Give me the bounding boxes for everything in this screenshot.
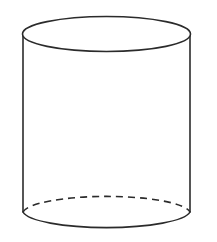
cylinder-drawing bbox=[0, 0, 217, 242]
figure-canvas bbox=[0, 0, 217, 242]
cylinder-body-fill bbox=[23, 34, 190, 228]
